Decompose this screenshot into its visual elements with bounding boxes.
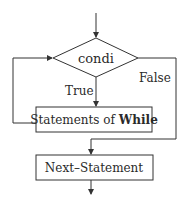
false-label: False: [139, 71, 171, 85]
body-label: Statements of While: [30, 113, 158, 127]
next-label: Next–Statement: [45, 161, 144, 175]
body-label-bold: While: [118, 113, 158, 127]
condition-label: condi: [78, 51, 114, 66]
body-label-prefix: Statements of: [30, 113, 119, 127]
flowchart: condi True Statements of While False Nex…: [0, 0, 186, 204]
true-label: True: [65, 84, 94, 98]
body-node: Statements of While: [30, 107, 158, 132]
next-node: Next–Statement: [36, 155, 153, 180]
condition-node: condi: [53, 38, 138, 77]
